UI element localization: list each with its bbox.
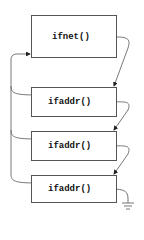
edge-ifaddr3-to-ifnet <box>11 54 37 183</box>
node-label-ifaddr-1: ifaddr() <box>48 97 91 107</box>
node-label-ifaddr-2: ifaddr() <box>48 141 91 151</box>
node-label-ifnet: ifnet() <box>52 32 90 42</box>
node-label-ifaddr-3: ifaddr() <box>48 184 91 194</box>
